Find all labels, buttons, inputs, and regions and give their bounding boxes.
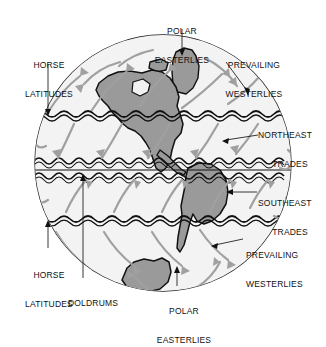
- label-prevailing-westerlies-north-line2: WESTERLIES: [208, 90, 300, 100]
- label-doldrums-text: DOLDRUMS: [53, 299, 133, 309]
- label-northeast-trades-line2: TRADES: [258, 160, 322, 170]
- label-polar-easterlies-north-line1: POLAR: [139, 27, 225, 37]
- label-prevailing-westerlies-south: PREVAILING WESTERLIES: [246, 232, 326, 308]
- label-doldrums: DOLDRUMS: [53, 280, 133, 328]
- label-polar-easterlies-south-line1: POLAR: [141, 307, 227, 317]
- label-polar-easterlies-south-line2: EASTERLIES: [141, 336, 227, 346]
- label-horse-latitudes-north-line2: LATITUDES: [6, 90, 92, 100]
- label-prevailing-westerlies-south-line2: WESTERLIES: [246, 280, 326, 290]
- label-southeast-trades-line1: SOUTHEAST: [258, 199, 326, 209]
- label-prevailing-westerlies-north: PREVAILING WESTERLIES: [208, 42, 300, 118]
- label-northeast-trades-line1: NORTHEAST: [258, 131, 326, 141]
- label-horse-latitudes-north: HORSE LATITUDES: [6, 42, 92, 118]
- label-prevailing-westerlies-south-line1: PREVAILING: [246, 251, 326, 261]
- label-prevailing-westerlies-north-line1: PREVAILING: [208, 61, 300, 71]
- label-polar-easterlies-south: POLAR EASTERLIES: [141, 288, 227, 347]
- label-northeast-trades: NORTHEAST TRADES: [258, 112, 326, 188]
- label-horse-latitudes-north-line1: HORSE: [6, 61, 92, 71]
